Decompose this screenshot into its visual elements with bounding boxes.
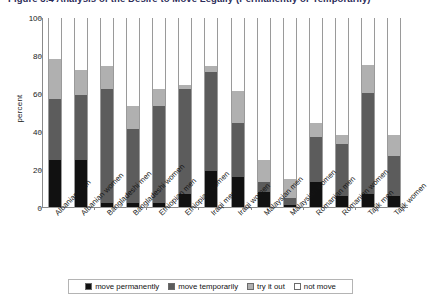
bar-segment bbox=[362, 65, 374, 94]
legend-item: move permanently bbox=[85, 282, 159, 291]
figure-title: Figure 3.4 Analysis of the Desire to Mov… bbox=[8, 0, 413, 5]
bar-segment bbox=[75, 70, 87, 95]
bar-segment bbox=[232, 17, 244, 91]
bar-segment bbox=[336, 17, 348, 135]
bar-segment bbox=[101, 66, 113, 89]
legend-label: not move bbox=[304, 282, 336, 291]
legend-swatch bbox=[168, 283, 175, 290]
legend-swatch bbox=[85, 283, 92, 290]
bar-segment bbox=[310, 17, 322, 123]
bar-segment bbox=[258, 160, 270, 183]
bar-segment bbox=[205, 17, 217, 66]
bar-segment bbox=[153, 17, 165, 89]
legend-item: not move bbox=[294, 282, 336, 291]
bar-segment bbox=[310, 137, 322, 183]
legend-label: try it out bbox=[257, 282, 285, 291]
bar-segment bbox=[388, 135, 400, 156]
bar-segment bbox=[362, 17, 374, 65]
legend-item: move temporarily bbox=[168, 282, 238, 291]
bar-segment bbox=[179, 85, 191, 89]
bar-segment bbox=[232, 91, 244, 123]
legend-item: try it out bbox=[247, 282, 285, 291]
bar-segment bbox=[127, 106, 139, 129]
bar-stack bbox=[48, 18, 62, 208]
bar-stack bbox=[257, 18, 271, 208]
bar-segment bbox=[205, 72, 217, 171]
bar-segment bbox=[310, 123, 322, 136]
bar-segment bbox=[49, 160, 61, 208]
bar-segment bbox=[75, 17, 87, 70]
bar-segment bbox=[205, 66, 217, 72]
chart-legend: move permanentlymove temporarilytry it o… bbox=[68, 279, 353, 294]
legend-swatch bbox=[247, 283, 254, 290]
bar-segment bbox=[336, 135, 348, 145]
bar-segment bbox=[75, 95, 87, 160]
bar-segment bbox=[49, 99, 61, 160]
bar-stack bbox=[387, 18, 401, 208]
bar-segment bbox=[258, 17, 270, 160]
bar-segment bbox=[101, 17, 113, 66]
bar-segment bbox=[153, 89, 165, 106]
bar-segment bbox=[127, 17, 139, 106]
bar-segment bbox=[179, 17, 191, 85]
bar-segment bbox=[232, 123, 244, 176]
bar-segment bbox=[49, 59, 61, 99]
y-axis-ticks: 020406080100 bbox=[13, 18, 42, 208]
legend-label: move permanently bbox=[95, 282, 159, 291]
bar-segment bbox=[284, 17, 296, 179]
bar-stack bbox=[231, 18, 245, 208]
bar-segment bbox=[49, 17, 61, 59]
legend-swatch bbox=[294, 283, 301, 290]
bar-segment bbox=[388, 17, 400, 135]
legend-label: move temporarily bbox=[178, 282, 238, 291]
